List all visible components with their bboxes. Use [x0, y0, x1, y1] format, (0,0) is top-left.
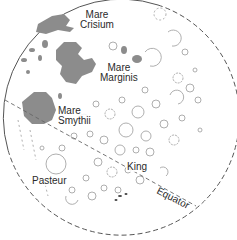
label-mare-smythii: Mare Smythii [57, 106, 92, 126]
label-mare-smythii-line2: Smythii [58, 116, 91, 126]
label-mare-crisium: Mare Crisium [79, 10, 115, 30]
mare-smythii-shape [22, 92, 56, 124]
mare-fecunditatis-edge [56, 42, 96, 84]
label-mare-marginis-line2: Marginis [100, 73, 138, 83]
label-mare-marginis: Mare Marginis [99, 63, 139, 83]
dark-craters [115, 193, 128, 201]
mare-crisium-shape [36, 14, 74, 34]
label-pasteur: Pasteur [31, 176, 67, 186]
moon-map [0, 0, 237, 240]
label-mare-crisium-line2: Crisium [80, 20, 114, 30]
mare-marginis-spot [132, 55, 142, 63]
label-king: King [126, 162, 148, 172]
